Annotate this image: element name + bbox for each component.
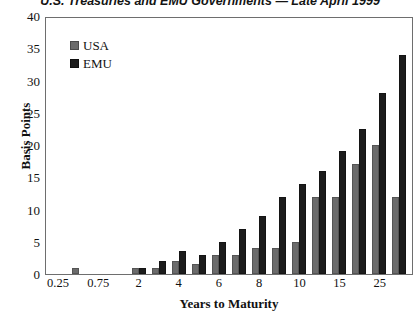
bar-usa — [392, 197, 399, 274]
bar-emu — [239, 229, 246, 274]
y-tick-label: 5 — [0, 236, 45, 249]
bar-emu — [299, 184, 306, 274]
bar-usa — [272, 248, 279, 274]
y-tick-label: 10 — [0, 204, 45, 217]
bar-emu — [319, 171, 326, 274]
bar-emu — [259, 216, 266, 274]
x-tick-label: 2 — [135, 277, 141, 290]
y-tick-label: 20 — [0, 139, 45, 152]
bar-group — [309, 18, 329, 274]
bar-group — [269, 18, 289, 274]
x-tick-label: 0.75 — [87, 277, 109, 290]
bar-usa — [172, 261, 179, 274]
y-tick-label: 40 — [0, 10, 45, 23]
bar-usa — [212, 255, 219, 274]
bar-group — [329, 18, 349, 274]
x-axis-label: Years to Maturity — [45, 296, 413, 312]
x-tick-label: 0.25 — [47, 277, 69, 290]
bar-usa — [372, 145, 379, 274]
legend-swatch-icon — [70, 41, 79, 50]
bar-group — [129, 18, 149, 274]
y-tick-label: 15 — [0, 171, 45, 184]
bar-emu — [399, 55, 406, 274]
bar-group — [49, 18, 69, 274]
x-tick-label: 10 — [293, 277, 306, 290]
bar-emu — [339, 151, 346, 274]
bar-group — [369, 18, 389, 274]
bar-usa — [152, 268, 159, 274]
bar-usa — [312, 197, 319, 274]
bar-group — [389, 18, 409, 274]
chart-figure: U.S. Treasuries and EMU Governments — La… — [0, 0, 420, 318]
bar-emu — [379, 93, 386, 274]
y-tick-label: 0 — [0, 268, 45, 281]
x-tick-label: 25 — [374, 277, 387, 290]
x-tick-label: 4 — [176, 277, 182, 290]
legend-item: USA — [70, 39, 112, 52]
y-tick-label: 25 — [0, 107, 45, 120]
x-axis-ticks: 0.250.752468101525 — [45, 277, 413, 293]
legend-swatch-icon — [70, 59, 79, 68]
bar-group — [109, 18, 129, 274]
bar-group — [209, 18, 229, 274]
chart-title: U.S. Treasuries and EMU Governments — La… — [0, 0, 420, 10]
legend-item-label: USA — [83, 39, 109, 52]
legend-item-label: EMU — [83, 57, 112, 70]
bar-group — [289, 18, 309, 274]
x-tick-label: 6 — [216, 277, 222, 290]
bar-usa — [252, 248, 259, 274]
x-tick-label: 8 — [256, 277, 262, 290]
bar-usa — [72, 268, 79, 274]
bar-emu — [279, 197, 286, 274]
bar-emu — [199, 255, 206, 274]
bar-usa — [332, 197, 339, 274]
bar-group — [349, 18, 369, 274]
bar-usa — [132, 268, 139, 274]
bar-emu — [219, 242, 226, 274]
bar-usa — [192, 264, 199, 274]
chart-title-text: U.S. Treasuries and EMU Governments — La… — [0, 0, 420, 8]
bar-emu — [159, 261, 166, 274]
bar-group — [229, 18, 249, 274]
chart-legend: USAEMU — [70, 39, 112, 70]
bar-group — [169, 18, 189, 274]
bar-emu — [179, 251, 186, 274]
x-tick-label: 15 — [333, 277, 346, 290]
bar-usa — [232, 255, 239, 274]
bar-usa — [352, 164, 359, 274]
legend-item: EMU — [70, 57, 112, 70]
bar-group — [149, 18, 169, 274]
bar-usa — [292, 242, 299, 274]
y-tick-label: 35 — [0, 42, 45, 55]
y-tick-label: 30 — [0, 75, 45, 88]
bar-group — [189, 18, 209, 274]
bar-emu — [359, 129, 366, 274]
bar-emu — [139, 268, 146, 274]
bar-group — [249, 18, 269, 274]
